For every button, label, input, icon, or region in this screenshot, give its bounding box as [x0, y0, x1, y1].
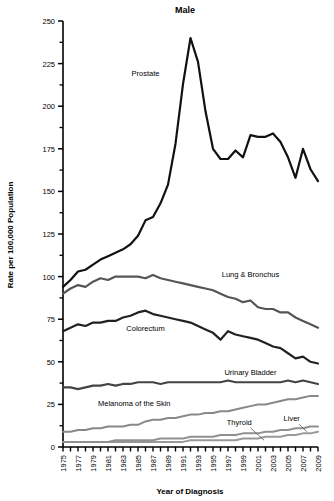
- series-label-colorectum: Colorectum: [126, 324, 164, 333]
- x-tick-label: 1977: [74, 455, 83, 472]
- series-label-prostate: Prostate: [132, 69, 160, 78]
- y-tick-label: 150: [42, 187, 55, 196]
- x-tick-label: 2003: [269, 455, 278, 472]
- x-tick-label: 1995: [209, 455, 218, 472]
- chart-title: Male: [175, 5, 195, 15]
- x-tick-label: 1983: [119, 455, 128, 472]
- line-chart: Male Rate per 100,000 Population Year of…: [0, 0, 334, 501]
- y-tick-label: 100: [42, 273, 55, 282]
- chart-container: Male Rate per 100,000 Population Year of…: [0, 0, 334, 501]
- y-tick-label: 225: [42, 60, 55, 69]
- x-tick-label: 1989: [164, 455, 173, 472]
- y-tick-label: 175: [42, 145, 55, 154]
- series-label-urinary-bladder: Urinary Bladder: [224, 368, 277, 377]
- y-tick-label: 50: [47, 358, 55, 367]
- x-tick-label: 1991: [179, 455, 188, 472]
- x-tick-label: 1993: [194, 455, 203, 472]
- y-tick-label: 250: [42, 17, 55, 26]
- x-tick-label: 1985: [134, 455, 143, 472]
- x-tick-label: 1975: [59, 455, 68, 472]
- y-tick-label: 200: [42, 102, 55, 111]
- x-axis-title: Year of Diagnosis: [156, 487, 224, 496]
- x-tick-label: 1997: [224, 455, 233, 472]
- x-tick-label: 1999: [239, 455, 248, 472]
- x-tick-label: 1987: [149, 455, 158, 472]
- x-tick-label: 2009: [314, 455, 323, 472]
- x-tick-label: 2005: [284, 455, 293, 472]
- series-label-melanoma-of-the-skin: Melanoma of the Skin: [98, 399, 171, 408]
- series-label-thyroid: Thyroid: [227, 418, 252, 427]
- y-tick-label: 0: [51, 443, 55, 452]
- x-tick-label: 1979: [89, 455, 98, 472]
- y-axis-title: Rate per 100,000 Population: [6, 182, 15, 289]
- x-tick-label: 1981: [104, 455, 113, 472]
- series-label-lung-bronchus: Lung & Bronchus: [222, 270, 280, 279]
- series-label-liver: Liver: [284, 414, 301, 423]
- y-tick-label: 125: [42, 230, 55, 239]
- y-tick-label: 25: [47, 400, 55, 409]
- y-tick-label: 75: [47, 315, 55, 324]
- chart-background: [0, 0, 334, 501]
- x-tick-label: 2001: [254, 455, 263, 472]
- x-tick-label: 2007: [299, 455, 308, 472]
